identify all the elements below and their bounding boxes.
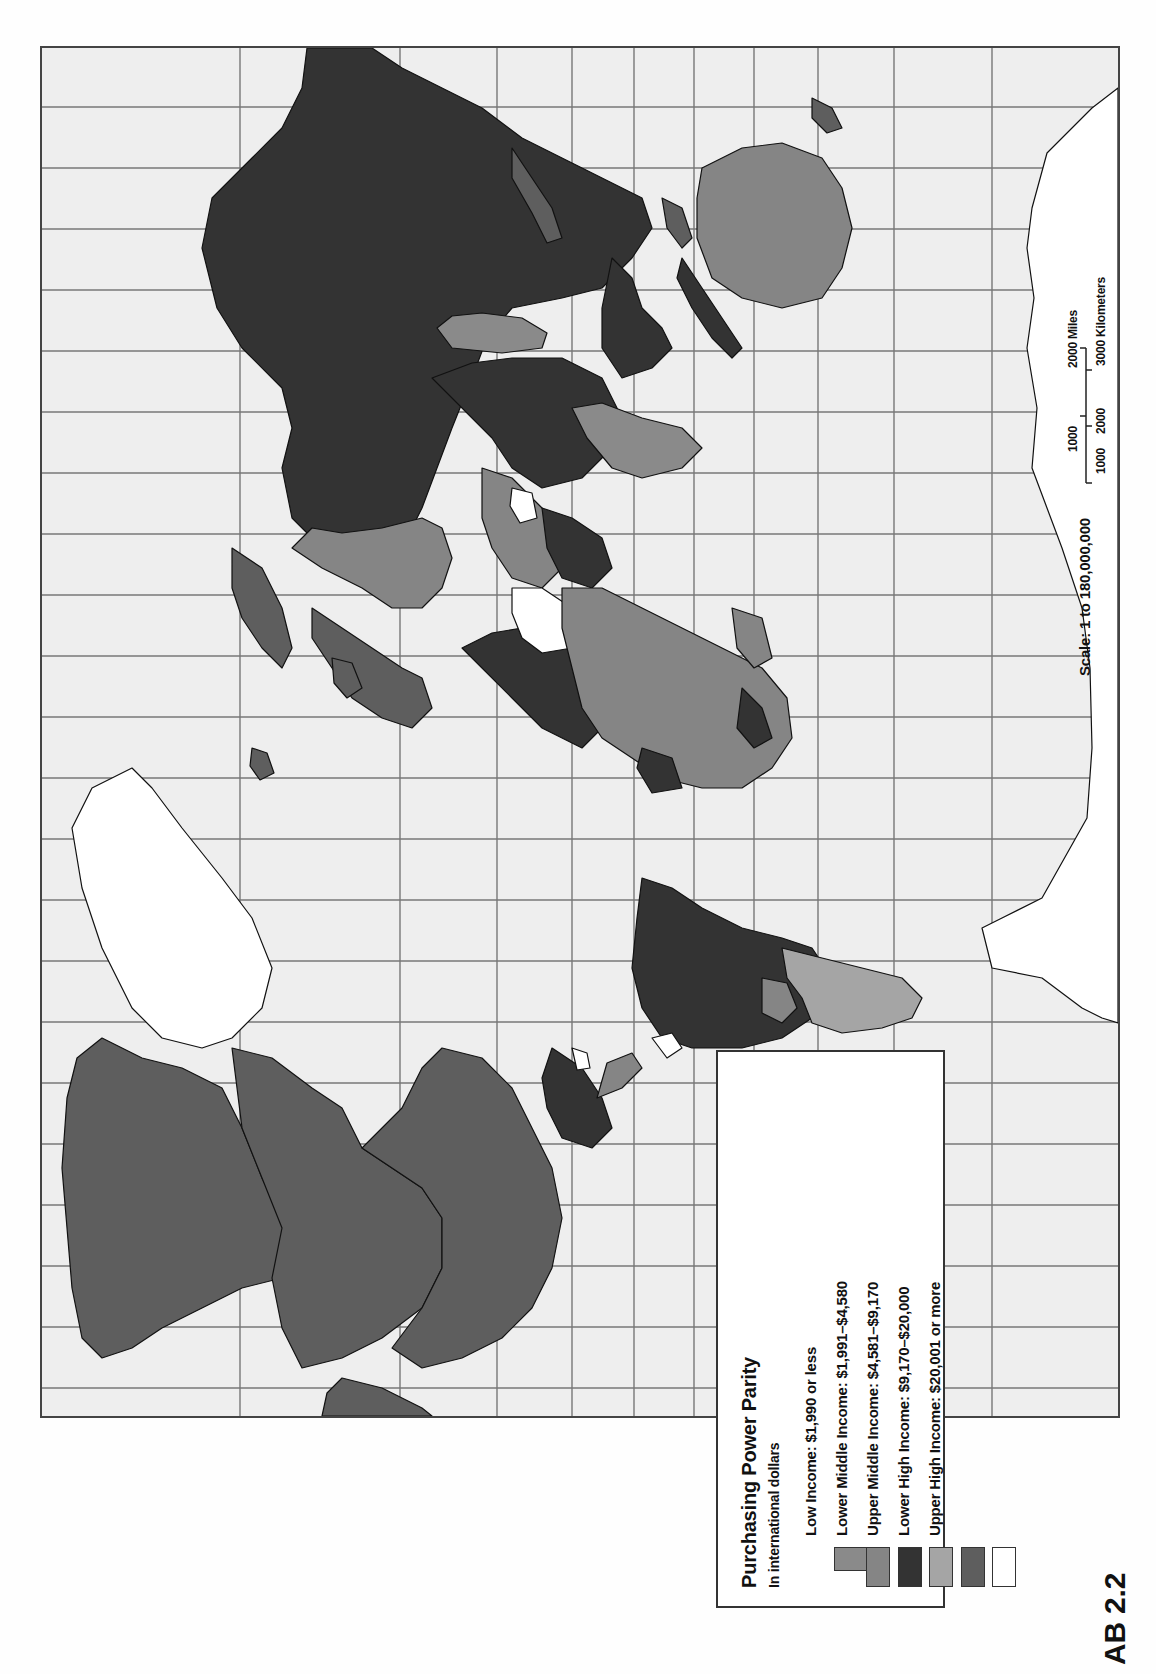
scandinavia bbox=[232, 548, 292, 668]
philippines bbox=[662, 198, 692, 248]
legend-subtitle: In international dollars bbox=[766, 1443, 782, 1588]
australia bbox=[697, 143, 852, 308]
western-europe bbox=[312, 608, 432, 728]
legend-label-upper-high: Upper High Income: $20,001 or more bbox=[926, 1282, 943, 1536]
legend-label-lower-high: Lower High Income: $9,170–$20,000 bbox=[895, 1287, 912, 1536]
mongolia bbox=[437, 313, 547, 353]
legend-swatch-lower-middle bbox=[866, 1547, 890, 1587]
scale-block: 2000 Miles 1000 3000 Kilometers 2000 100… bbox=[1032, 228, 1120, 708]
scale-km-mid: 2000 bbox=[1094, 408, 1108, 434]
iceland bbox=[250, 748, 274, 780]
russia-northern-asia bbox=[202, 48, 652, 568]
legend-swatch-low-income bbox=[834, 1547, 868, 1571]
page-label: AB 2.2 bbox=[1098, 1573, 1132, 1665]
scale-km-min: 1000 bbox=[1094, 448, 1108, 474]
scale-ratio: Scale: 1 to 180,000,000 bbox=[1076, 518, 1093, 676]
legend-swatch-upper-middle bbox=[898, 1547, 922, 1587]
central-america bbox=[597, 1053, 642, 1098]
scale-miles-mid: 1000 bbox=[1066, 426, 1080, 452]
legend-label-lower-middle: Lower Middle Income: $1,991–$4,580 bbox=[833, 1281, 850, 1536]
scale-miles-max: 2000 Miles bbox=[1066, 310, 1080, 368]
legend-swatch-lower-high bbox=[929, 1547, 953, 1587]
map-frame: 2000 Miles 1000 3000 Kilometers 2000 100… bbox=[40, 46, 1120, 1418]
scale-km-max: 3000 Kilometers bbox=[1094, 277, 1108, 366]
world-map bbox=[42, 48, 1118, 1416]
legend: Purchasing Power Parity In international… bbox=[716, 1050, 945, 1608]
map-page: 2000 Miles 1000 3000 Kilometers 2000 100… bbox=[0, 0, 1156, 1674]
legend-label-low-income: Low Income: $1,990 or less bbox=[802, 1347, 819, 1536]
new-zealand bbox=[812, 98, 842, 133]
legend-label-upper-middle: Upper Middle Income: $4,581–$9,170 bbox=[864, 1282, 881, 1536]
greenland bbox=[72, 768, 272, 1048]
legend-title: Purchasing Power Parity bbox=[738, 1357, 761, 1588]
legend-swatch-no-data bbox=[992, 1547, 1016, 1587]
legend-swatch-upper-high bbox=[961, 1547, 985, 1587]
alaska bbox=[322, 1378, 432, 1416]
southeast-asia bbox=[602, 258, 672, 378]
